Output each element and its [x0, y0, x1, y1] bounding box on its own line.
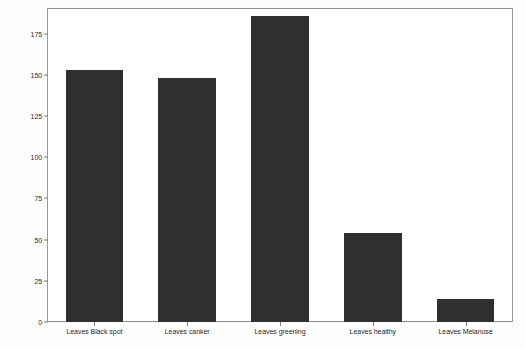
bar: [66, 70, 124, 322]
x-tick-label: Leaves greening: [254, 328, 305, 335]
bar: [251, 16, 309, 322]
y-tick-label: 175: [31, 30, 48, 37]
bar: [344, 233, 402, 322]
bar: [158, 78, 216, 322]
x-tick-mark: [94, 322, 95, 326]
x-tick-label: Leaves canker: [165, 328, 210, 335]
y-tick-label: 50: [34, 236, 48, 243]
x-tick-label: Leaves healthy: [350, 328, 396, 335]
x-tick-mark: [466, 322, 467, 326]
bar-chart: 0255075100125150175 Leaves Black spotLea…: [0, 0, 525, 349]
x-tick-label: Leaves Black spot: [66, 328, 122, 335]
x-tick-mark: [187, 322, 188, 326]
y-tick-label: 125: [31, 113, 48, 120]
x-tick-label: Leaves Melanose: [439, 328, 493, 335]
bar: [437, 299, 495, 322]
y-tick-label: 0: [38, 319, 48, 326]
y-tick-label: 25: [34, 277, 48, 284]
y-tick-label: 150: [31, 71, 48, 78]
x-tick-mark: [280, 322, 281, 326]
x-tick-mark: [373, 322, 374, 326]
y-tick-label: 75: [34, 195, 48, 202]
plot-area: 0255075100125150175 Leaves Black spotLea…: [48, 9, 512, 322]
y-tick-label: 100: [31, 154, 48, 161]
